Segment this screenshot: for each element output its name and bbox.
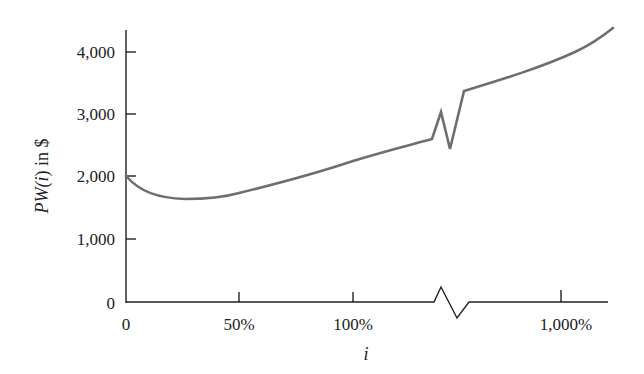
- x-axis-title: i: [363, 344, 368, 364]
- pw-curve: [126, 28, 613, 199]
- x-axis: [126, 287, 608, 318]
- x-tick-label-1000: 1,000%: [540, 315, 592, 334]
- x-tick-label-0: 0: [122, 315, 131, 334]
- y-axis-title: PW(i) in $: [32, 138, 53, 214]
- y-tick-label-1000: 1,000: [77, 230, 115, 249]
- x-ticks: [239, 290, 561, 302]
- y-ticks: [126, 52, 136, 239]
- y-tick-label-2000: 2,000: [77, 167, 115, 186]
- x-tick-label-100: 100%: [333, 315, 373, 334]
- y-tick-label-4000: 4,000: [77, 43, 115, 62]
- x-tick-label-50: 50%: [223, 315, 254, 334]
- y-tick-label-3000: 3,000: [77, 105, 115, 124]
- pw-vs-interest-chart: 4,000 3,000 2,000 1,000 0 PW(i) in $ 0 5…: [0, 0, 644, 374]
- y-tick-label-0: 0: [107, 294, 116, 313]
